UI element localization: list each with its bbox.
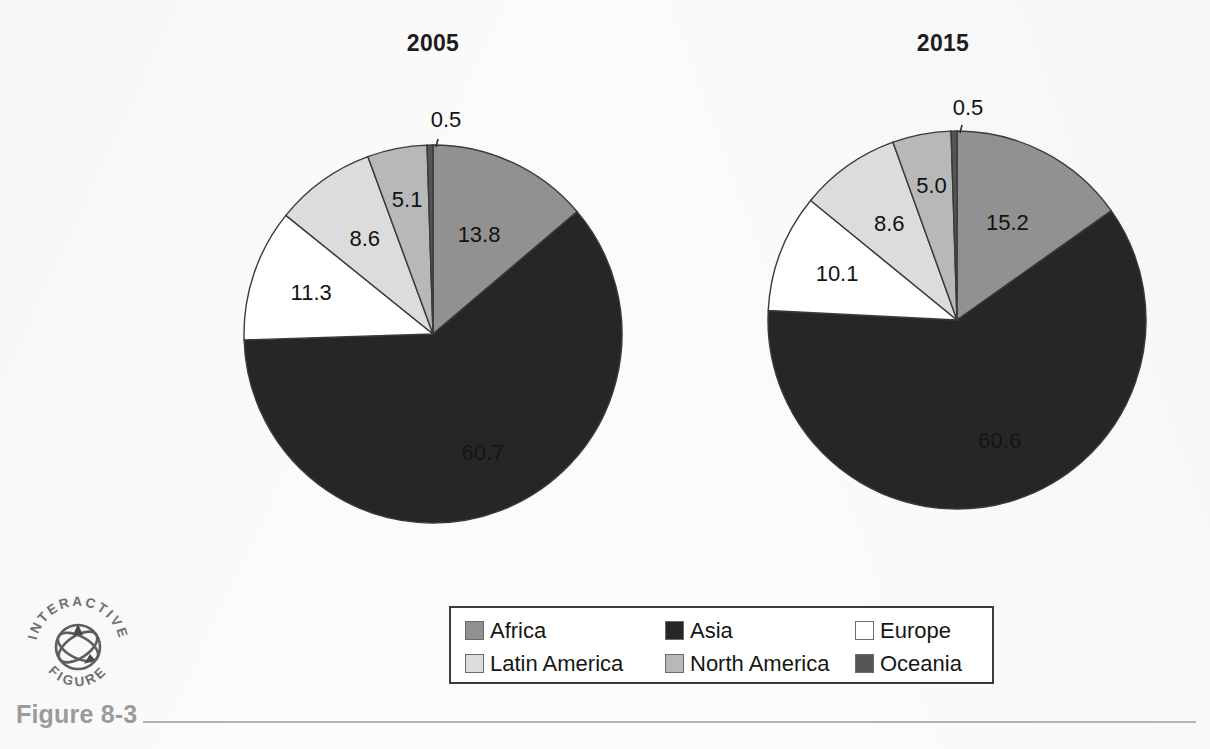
value-label-latin-america: 8.6	[349, 226, 380, 252]
pie-slices	[762, 125, 1152, 515]
value-label-asia: 60.6	[978, 428, 1021, 454]
legend-label: Africa	[490, 620, 546, 642]
value-label-north-america: 5.1	[392, 187, 423, 213]
legend-swatch-icon	[465, 621, 484, 640]
legend-label: Asia	[690, 620, 733, 642]
legend-item-europe[interactable]: Europe	[855, 620, 1005, 642]
legend-label: Oceania	[880, 653, 962, 675]
interactive-figure-logo[interactable]: INTERACTIVE FIGURE	[22, 590, 134, 698]
legend-swatch-icon	[465, 654, 484, 673]
legend-item-oceania[interactable]: Oceania	[855, 653, 1005, 675]
figure-caption-row: Figure 8-3	[16, 700, 1196, 729]
value-label-europe: 11.3	[291, 280, 332, 306]
chart-title-2015: 2015	[863, 30, 1023, 57]
value-label-asia: 60.7	[461, 440, 504, 466]
legend-item-asia[interactable]: Asia	[665, 620, 855, 642]
figure-8-3: 2005 2015 13.860.711.38.65.10.5 15.260.6…	[0, 0, 1210, 749]
pie-chart-2015[interactable]: 15.260.610.18.65.00.5	[762, 125, 1152, 515]
legend-item-africa[interactable]: Africa	[465, 620, 665, 642]
value-label-north-america: 5.0	[916, 173, 947, 199]
value-label-europe: 10.1	[816, 261, 859, 287]
value-label-africa: 13.8	[458, 222, 501, 248]
value-label-oceania: 0.5	[431, 107, 462, 133]
legend-swatch-icon	[665, 621, 684, 640]
pie-chart-2005[interactable]: 13.860.711.38.65.10.5	[238, 139, 628, 529]
legend-label: Europe	[880, 620, 951, 642]
legend-swatch-icon	[855, 621, 874, 640]
legend-swatch-icon	[855, 654, 874, 673]
legend-label: Latin America	[490, 653, 623, 675]
legend-label: North America	[690, 653, 829, 675]
chart-title-2005: 2005	[353, 30, 513, 57]
value-label-africa: 15.2	[986, 210, 1029, 236]
legend-item-north-america[interactable]: North America	[665, 653, 855, 675]
figure-caption: Figure 8-3	[16, 700, 137, 729]
caption-underline	[143, 721, 1196, 723]
value-label-latin-america: 8.6	[874, 211, 905, 237]
svg-text:FIGURE: FIGURE	[46, 663, 111, 690]
legend-item-latin-america[interactable]: Latin America	[465, 653, 665, 675]
legend-swatch-icon	[665, 654, 684, 673]
pie-slices	[238, 139, 628, 529]
value-label-oceania: 0.5	[953, 95, 984, 121]
legend: AfricaAsiaEuropeLatin AmericaNorth Ameri…	[449, 606, 994, 684]
